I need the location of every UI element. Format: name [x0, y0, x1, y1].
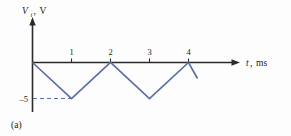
- figure-caption: (a): [11, 120, 22, 131]
- y-tick-label-minus-five: –5: [19, 94, 29, 104]
- waveform-plot: V i , V t , ms 1 2 3 4 –5 (a): [0, 0, 291, 136]
- x-tick-label-3: 3: [147, 47, 151, 57]
- x-tick-label-1: 1: [69, 47, 73, 57]
- y-axis-label-symbol: V: [22, 6, 29, 16]
- y-axis-arrowhead-icon: [29, 17, 35, 26]
- y-axis-label-separator: ,: [34, 6, 36, 16]
- waveform-trace: [33, 63, 198, 99]
- x-axis-label-separator: ,: [250, 58, 252, 68]
- x-axis-label: t , ms: [246, 58, 267, 68]
- x-axis-label-unit: ms: [256, 58, 267, 68]
- y-axis-label: V i , V: [22, 6, 47, 18]
- y-axis-label-subscript: i: [31, 11, 33, 18]
- figure-container: V i , V t , ms 1 2 3 4 –5 (a): [0, 0, 291, 136]
- x-tick-label-2: 2: [108, 47, 112, 57]
- x-axis-tick-labels: 1 2 3 4: [69, 47, 191, 57]
- x-axis-label-symbol: t: [246, 58, 249, 68]
- y-axis-label-unit: V: [40, 6, 47, 16]
- x-axis: [33, 59, 241, 65]
- x-axis-arrowhead-icon: [232, 59, 241, 65]
- x-tick-label-4: 4: [186, 47, 191, 57]
